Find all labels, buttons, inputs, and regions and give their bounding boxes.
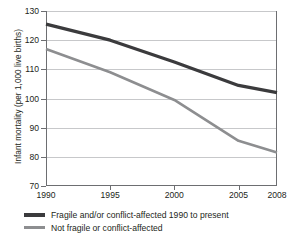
y-axis-tick-label: 80	[0, 152, 39, 162]
x-axis-tick-label: 1990	[36, 190, 55, 200]
x-axis-tick-mark	[239, 186, 240, 190]
series-lines	[46, 11, 277, 186]
legend-swatch-icon	[24, 226, 45, 229]
legend-item[interactable]: Fragile and/or conflict-affected 1990 to…	[24, 208, 286, 221]
legend-label: Fragile and/or conflict-affected 1990 to…	[51, 210, 229, 220]
series-line-0	[46, 24, 277, 93]
y-axis-tick-label: 70	[0, 181, 39, 191]
legend-swatch-icon	[24, 213, 45, 217]
x-axis-tick-mark	[174, 186, 175, 190]
x-axis-tick-mark	[110, 186, 111, 190]
y-axis-tick-label: 90	[0, 123, 39, 133]
y-axis-tick-label: 130	[0, 6, 39, 16]
series-line-1	[46, 49, 277, 153]
y-axis-tick-label: 100	[0, 94, 39, 104]
infant-mortality-line-chart: Infant mortality (per 1,000 live births)…	[0, 0, 289, 237]
y-axis-tick-mark	[41, 186, 46, 187]
y-axis-tick-label: 110	[0, 64, 39, 74]
legend-label: Not fragile or conflict-affected	[51, 223, 163, 233]
chart-legend: Fragile and/or conflict-affected 1990 to…	[24, 208, 286, 234]
y-axis-tick-label: 120	[0, 35, 39, 45]
x-axis-tick-label: 2000	[165, 190, 184, 200]
x-axis-tick-label: 2008	[267, 190, 286, 200]
x-axis-tick-label: 2005	[229, 190, 248, 200]
legend-item[interactable]: Not fragile or conflict-affected	[24, 221, 286, 234]
x-axis-tick-label: 1995	[101, 190, 120, 200]
